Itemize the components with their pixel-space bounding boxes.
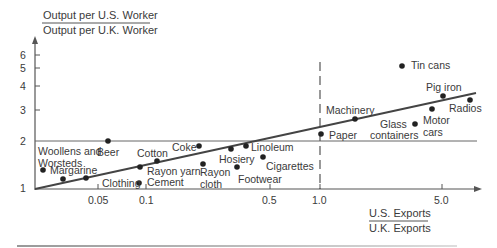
y-tick-label: 2: [20, 135, 26, 147]
point-tin-cans: [399, 63, 405, 69]
point-label-margarine: Margarine: [50, 164, 97, 176]
point-pig-iron: [440, 93, 446, 99]
y-tick-label: 1: [20, 182, 26, 194]
x-tick-label: 0.1: [139, 194, 154, 206]
point-label-rayon: Rayon: [200, 166, 230, 178]
y-tick-label: 6: [20, 49, 26, 61]
point-machinery: [352, 116, 358, 122]
point-label-beer: Beer: [97, 146, 119, 158]
point-label-cotton: Cotton: [137, 147, 168, 159]
point-label-coke: Coke: [172, 141, 197, 153]
point-paper: [318, 131, 324, 137]
x-tick-label: 1.0: [312, 194, 327, 206]
point-label-pig-iron: Pig iron: [426, 81, 462, 93]
point-rayon-yarn: [137, 164, 143, 170]
x-axis-label-numerator: U.S. Exports: [369, 207, 431, 220]
point-label-tin-cans: Tin cans: [411, 59, 450, 71]
y-axis-label-denominator: Output per U.K. Worker: [43, 24, 158, 37]
point-cigarettes: [260, 154, 266, 160]
point-hosiery: [228, 146, 234, 152]
point-label-cloth: cloth: [200, 178, 222, 190]
point-label-cement: Cement: [147, 176, 184, 188]
point-label-paper: Paper: [329, 129, 357, 141]
point-label-woollens: Woollens and: [38, 145, 101, 157]
y-tick-label: 4: [20, 80, 26, 92]
point-unlabeled: [83, 175, 89, 181]
y-axis-arrow-icon: [32, 36, 38, 44]
x-tick-label: 0.05: [88, 194, 108, 206]
point-label-hosiery: Hosiery: [219, 153, 255, 165]
data-points: [40, 63, 473, 186]
y-ticks: [35, 55, 40, 110]
point-label-cars: cars: [423, 126, 443, 138]
point-margarine: [60, 176, 66, 182]
point-footwear: [234, 164, 240, 170]
point-cotton: [154, 158, 160, 164]
point-glass-containers: [412, 121, 418, 127]
x-axis-arrow-icon: [474, 186, 482, 192]
point-label-cigarettes: Cigarettes: [266, 160, 314, 172]
y-axis-label-numerator: Output per U.S. Worker: [43, 9, 158, 22]
point-label-containers: containers: [370, 129, 418, 141]
point-label-motor: Motor: [423, 114, 450, 126]
x-tick-label: 0.5: [262, 194, 277, 206]
point-label-clothing: Clothing: [102, 177, 141, 189]
point-beer: [105, 138, 111, 144]
point-label-linoleum: Linoleum: [251, 141, 294, 153]
point-label-radios: Radios: [449, 102, 482, 114]
point-coke: [196, 143, 202, 149]
y-tick-label: 3: [20, 104, 26, 116]
x-axis-label-denominator: U.K. Exports: [369, 222, 431, 235]
point-linoleum: [243, 143, 249, 149]
point-label-footwear: Footwear: [238, 173, 282, 185]
y-tick-label: 5: [20, 62, 26, 74]
point-label-machinery: Machinery: [326, 104, 374, 116]
bottom-divider: [17, 245, 457, 247]
x-tick-label: 5.0: [434, 194, 449, 206]
point-motor-cars: [429, 106, 435, 112]
